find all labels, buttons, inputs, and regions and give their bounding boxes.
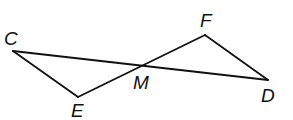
label-m: M <box>133 72 149 93</box>
label-d: D <box>261 85 275 106</box>
label-e: E <box>71 100 84 120</box>
label-c: C <box>4 28 18 49</box>
geometry-diagram: C E M F D <box>0 0 293 120</box>
label-f: F <box>200 10 213 31</box>
